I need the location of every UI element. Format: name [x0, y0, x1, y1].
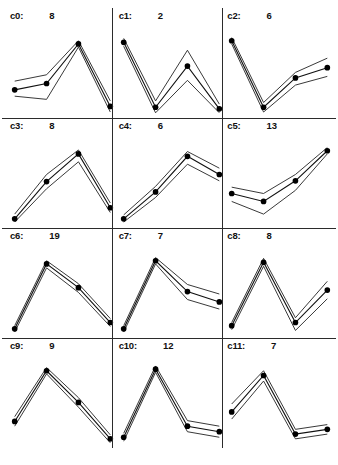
- series-center-c0: [15, 44, 111, 107]
- panel-c6[interactable]: c6:19: [6, 228, 115, 338]
- data-point-c3-2: [44, 179, 50, 185]
- data-point-c4-2: [152, 189, 158, 195]
- data-point-c1-4: [216, 106, 222, 112]
- data-point-c7-1: [121, 326, 127, 332]
- row-separator-3: [2, 338, 336, 339]
- series-center-c4: [123, 156, 219, 219]
- data-point-c2-4: [325, 65, 331, 71]
- panel-plot-c3: [6, 118, 115, 228]
- data-point-c9-1: [12, 419, 18, 425]
- data-point-c7-3: [184, 289, 190, 295]
- panel-c3[interactable]: c3:8: [6, 118, 115, 228]
- series-upper-c0: [15, 41, 111, 101]
- panel-c0[interactable]: c0:8: [6, 8, 115, 118]
- series-lower-c9: [15, 374, 111, 443]
- data-point-c0-2: [44, 81, 50, 87]
- data-point-c10-4: [216, 429, 222, 435]
- panel-plot-c0: [6, 8, 115, 118]
- row-separator-1: [2, 118, 336, 119]
- data-point-c11-2: [261, 373, 267, 379]
- series-lower-c11: [232, 381, 328, 439]
- panel-c5[interactable]: c5:13: [223, 118, 332, 228]
- data-point-c11-3: [293, 431, 299, 437]
- data-point-c9-3: [76, 400, 82, 406]
- data-point-c2-1: [229, 38, 235, 44]
- series-center-c11: [232, 375, 328, 434]
- panel-c9[interactable]: c9:9: [6, 338, 115, 448]
- panel-c10[interactable]: c10:12: [115, 338, 224, 448]
- panel-plot-c6: [6, 228, 115, 338]
- data-point-c11-1: [229, 409, 235, 415]
- row-separator-2: [2, 228, 336, 229]
- data-point-c4-1: [121, 216, 127, 222]
- data-point-c5-1: [229, 191, 235, 197]
- data-point-c6-1: [12, 326, 18, 332]
- series-upper-c4: [123, 152, 219, 215]
- data-point-c6-2: [44, 261, 50, 267]
- data-point-c8-4: [325, 287, 331, 293]
- data-point-c4-4: [216, 172, 222, 178]
- data-point-c6-3: [76, 285, 82, 291]
- series-center-c9: [15, 371, 111, 439]
- series-upper-c6: [15, 261, 111, 326]
- panel-c2[interactable]: c2:6: [223, 8, 332, 118]
- data-point-c3-3: [76, 151, 82, 157]
- data-point-c4-3: [184, 153, 190, 159]
- panel-c8[interactable]: c8:8: [223, 228, 332, 338]
- panel-plot-c8: [223, 228, 332, 338]
- data-point-c8-1: [229, 323, 235, 329]
- data-point-c10-3: [184, 423, 190, 429]
- series-center-c5: [232, 151, 328, 202]
- series-lower-c3: [15, 162, 111, 222]
- data-point-c9-2: [44, 368, 50, 374]
- panel-plot-c2: [223, 8, 332, 118]
- panel-c4[interactable]: c4:6: [115, 118, 224, 228]
- data-point-c3-1: [12, 216, 18, 222]
- series-center-c3: [15, 154, 111, 219]
- data-point-c2-2: [261, 104, 267, 110]
- series-lower-c4: [123, 164, 219, 222]
- data-point-c5-3: [293, 178, 299, 184]
- panel-plot-c5: [223, 118, 332, 228]
- panel-c11[interactable]: c11:7: [223, 338, 332, 448]
- data-point-c5-2: [261, 199, 267, 205]
- data-point-c8-3: [293, 320, 299, 326]
- data-point-c11-4: [325, 426, 331, 432]
- data-point-c1-3: [184, 63, 190, 69]
- panel-plot-c7: [115, 228, 224, 338]
- data-point-c0-3: [76, 41, 82, 47]
- series-upper-c3: [15, 150, 111, 214]
- panel-plot-c4: [115, 118, 224, 228]
- data-point-c10-1: [121, 434, 127, 440]
- data-point-c7-4: [216, 299, 222, 305]
- data-point-c2-3: [293, 75, 299, 81]
- series-lower-c0: [15, 47, 111, 112]
- data-point-c1-1: [121, 39, 127, 45]
- panel-plot-c11: [223, 338, 332, 448]
- panel-c1[interactable]: c1:2: [115, 8, 224, 118]
- data-point-c0-1: [12, 87, 18, 93]
- panel-c7[interactable]: c7:7: [115, 228, 224, 338]
- series-upper-c7: [123, 258, 219, 326]
- panel-plot-c1: [115, 8, 224, 118]
- series-upper-c9: [15, 368, 111, 435]
- data-point-c10-2: [152, 366, 158, 372]
- data-point-c7-2: [152, 258, 158, 264]
- panel-plot-c10: [115, 338, 224, 448]
- series-lower-c2: [232, 44, 328, 112]
- data-point-c5-4: [325, 148, 331, 154]
- cluster-prototype-figure: c0:8c1:2c2:6c3:8c4:6c5:13c6:19c7:7c8:8c9…: [0, 0, 338, 465]
- data-point-c8-2: [261, 259, 267, 265]
- series-upper-c11: [232, 371, 328, 430]
- data-point-c1-2: [152, 104, 158, 110]
- panel-plot-c9: [6, 338, 115, 448]
- series-upper-c10: [123, 366, 219, 433]
